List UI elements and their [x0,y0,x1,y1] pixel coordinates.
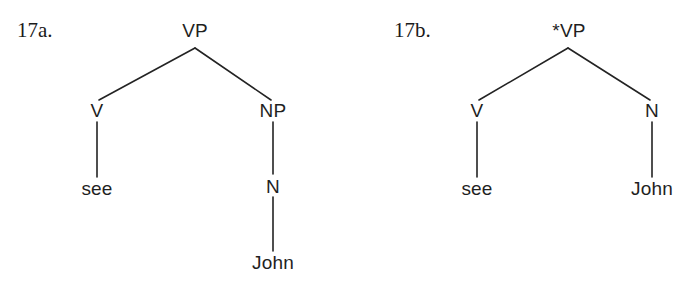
node-n-17a: N [266,177,280,196]
edge-vp-to-v [99,48,195,100]
leaf-john-17a: John [252,253,294,272]
edge-star-vp-to-n [568,48,650,100]
leaf-john-17b: John [631,179,673,198]
example-label-17b: 17b. [394,20,431,41]
edge-vp-to-np [195,48,271,100]
node-v-17a: V [91,101,104,120]
node-vp-root-17a: VP [182,21,208,40]
node-n-17b: N [645,101,659,120]
tree-edges [0,0,691,298]
edge-star-vp-to-v [479,48,568,100]
node-v-17b: V [471,101,484,120]
node-star-vp-root-17b: *VP [552,21,585,40]
example-label-17a: 17a. [17,20,53,41]
leaf-see-17b: see [461,179,492,198]
figure-canvas: 17a. VP V NP see N John 17b. *VP V N see… [0,0,691,298]
leaf-see-17a: see [81,179,112,198]
node-np-17a: NP [260,101,287,120]
